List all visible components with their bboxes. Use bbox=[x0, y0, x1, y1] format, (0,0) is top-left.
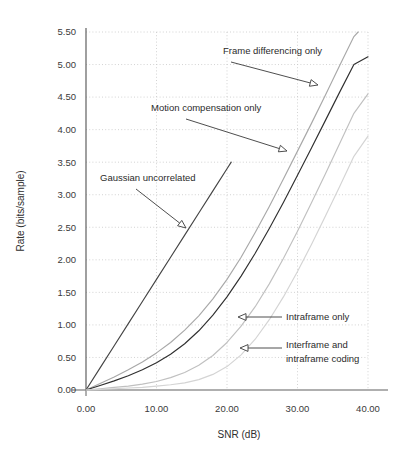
y-tick-label: 1.50 bbox=[58, 287, 77, 298]
annotation-label: Motion compensation only bbox=[151, 102, 262, 113]
y-tick-label: 2.00 bbox=[58, 254, 77, 265]
y-tick-label: 0.50 bbox=[58, 352, 77, 363]
y-tick-label: 5.50 bbox=[58, 26, 77, 37]
y-axis-title: Rate (bits/sample) bbox=[15, 170, 26, 251]
y-tick-label: 3.50 bbox=[58, 157, 77, 168]
y-tick-label: 5.00 bbox=[58, 59, 77, 70]
annotation-label-line2: intraframe coding bbox=[286, 353, 359, 364]
y-tick-label: 0.00 bbox=[58, 384, 77, 395]
annotation-label: Gaussian uncorrelated bbox=[100, 172, 196, 183]
x-tick-label: 30.00 bbox=[286, 403, 310, 414]
y-tick-label: 3.00 bbox=[58, 189, 77, 200]
x-axis-title: SNR (dB) bbox=[218, 429, 261, 440]
annotation-label: Intraframe only bbox=[286, 311, 350, 322]
y-tick-label: 4.50 bbox=[58, 91, 77, 102]
x-tick-label: 10.00 bbox=[145, 403, 169, 414]
annotation-label: Frame differencing only bbox=[223, 45, 322, 56]
x-tick-label: 0.00 bbox=[77, 403, 96, 414]
x-tick-label: 40.00 bbox=[356, 403, 380, 414]
x-tick-label: 20.00 bbox=[215, 403, 239, 414]
rate-vs-snr-line-chart: 0.000.501.001.502.002.503.003.504.004.50… bbox=[0, 0, 401, 461]
y-tick-label: 4.00 bbox=[58, 124, 77, 135]
chart-figure: 0.000.501.001.502.002.503.003.504.004.50… bbox=[0, 0, 401, 461]
y-tick-label: 2.50 bbox=[58, 222, 77, 233]
annotation-label: Interframe and bbox=[286, 339, 348, 350]
y-tick-label: 1.00 bbox=[58, 319, 77, 330]
